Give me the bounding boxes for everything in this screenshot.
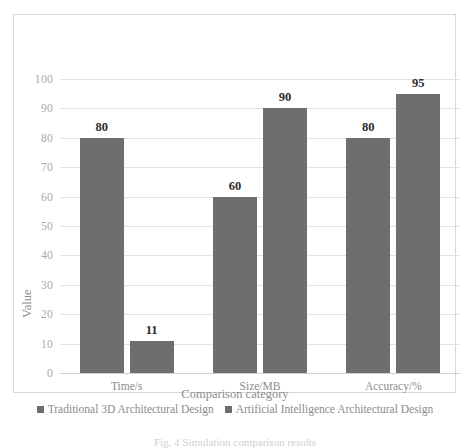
bar-group: 8095Accuracy/% bbox=[327, 79, 460, 373]
bar-ai[interactable]: 11 bbox=[130, 341, 174, 373]
bar-traditional[interactable]: 60 bbox=[213, 197, 257, 373]
y-axis-title: Value bbox=[20, 290, 35, 318]
figure-caption: Fig. 4 Simulation comparison results bbox=[0, 436, 470, 448]
legend-swatch-icon bbox=[225, 406, 232, 413]
bar-pair: 8011 bbox=[80, 79, 174, 373]
y-axis-tick-label: 20 bbox=[41, 308, 53, 320]
bar-group: 8011Time/s bbox=[60, 79, 193, 373]
bar-traditional[interactable]: 80 bbox=[80, 138, 124, 373]
bar-pair: 6090 bbox=[213, 79, 307, 373]
legend-swatch-icon bbox=[37, 406, 44, 413]
y-axis-tick-label: 80 bbox=[41, 132, 53, 144]
y-axis-tick-label: 0 bbox=[47, 367, 53, 379]
legend-item-ai[interactable]: Artificial Intelligence Architectural De… bbox=[225, 403, 434, 415]
y-axis-tick-label: 30 bbox=[41, 279, 53, 291]
x-axis-title: Comparison category bbox=[0, 387, 470, 402]
bar-value-label: 80 bbox=[95, 120, 108, 135]
bar-value-label: 60 bbox=[229, 179, 242, 194]
bar-value-label: 95 bbox=[412, 76, 425, 91]
chart-legend: Traditional 3D Architectural DesignArtif… bbox=[0, 403, 470, 415]
bar-value-label: 80 bbox=[362, 120, 375, 135]
legend-label: Artificial Intelligence Architectural De… bbox=[236, 403, 434, 415]
y-axis-tick-label: 10 bbox=[41, 338, 53, 350]
bar-ai[interactable]: 90 bbox=[263, 108, 307, 373]
plot-area: 1009080706050403020100 8011Time/s6090Siz… bbox=[60, 79, 460, 373]
bar-group: 6090Size/MB bbox=[193, 79, 326, 373]
legend-item-traditional[interactable]: Traditional 3D Architectural Design bbox=[37, 403, 214, 415]
y-axis-tick-label: 90 bbox=[41, 102, 53, 114]
bar-traditional[interactable]: 80 bbox=[346, 138, 390, 373]
gridline bbox=[60, 373, 460, 374]
bar-value-label: 90 bbox=[279, 90, 292, 105]
bar-pair: 8095 bbox=[346, 79, 440, 373]
y-axis-tick-label: 60 bbox=[41, 191, 53, 203]
bar-ai[interactable]: 95 bbox=[396, 94, 440, 373]
bar-value-label: 11 bbox=[146, 323, 158, 338]
y-axis-tick-label: 40 bbox=[41, 249, 53, 261]
legend-label: Traditional 3D Architectural Design bbox=[48, 403, 214, 415]
y-axis-tick-label: 50 bbox=[41, 220, 53, 232]
y-axis-tick-label: 100 bbox=[35, 73, 53, 85]
chart-frame: 1009080706050403020100 8011Time/s6090Siz… bbox=[13, 14, 456, 393]
y-axis-tick-label: 70 bbox=[41, 161, 53, 173]
